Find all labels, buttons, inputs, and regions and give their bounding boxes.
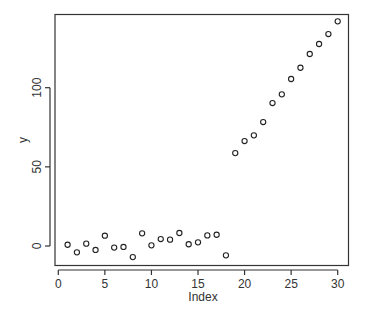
data-point [307,51,312,56]
data-point [223,253,228,258]
x-tick-label: 5 [102,277,109,291]
data-point [289,76,294,81]
x-axis-label: Index [188,290,217,304]
y-axis-label: y [16,137,30,143]
data-point [270,100,275,105]
data-point [167,237,172,242]
data-point [251,133,256,138]
y-tick-label: 100 [30,77,44,97]
y-axis: 050100 [30,77,50,249]
data-point [233,150,238,155]
data-point [195,240,200,245]
data-point [130,254,135,259]
data-point [186,242,191,247]
data-point [74,250,79,255]
y-tick-label: 0 [30,242,44,249]
data-point [279,92,284,97]
data-point [102,233,107,238]
x-tick-label: 15 [191,277,205,291]
data-point [93,247,98,252]
x-axis: 051015202530 [55,270,345,291]
x-tick-label: 20 [238,277,252,291]
data-points [65,19,340,260]
data-point [84,241,89,246]
data-point [158,236,163,241]
data-point [121,244,126,249]
scatter-chart: 051015202530 050100 Index y [0,0,367,316]
data-point [261,119,266,124]
data-point [177,230,182,235]
data-point [326,31,331,36]
data-point [242,138,247,143]
data-point [65,242,70,247]
data-point [205,233,210,238]
x-tick-label: 25 [284,277,298,291]
data-point [140,231,145,236]
data-point [112,245,117,250]
data-point [149,243,154,248]
plot-box [55,15,349,266]
data-point [335,19,340,24]
data-point [316,41,321,46]
data-point [214,232,219,237]
data-point [298,65,303,70]
x-tick-label: 30 [331,277,345,291]
y-tick-label: 50 [30,160,44,174]
x-tick-label: 10 [145,277,159,291]
x-tick-label: 0 [55,277,62,291]
